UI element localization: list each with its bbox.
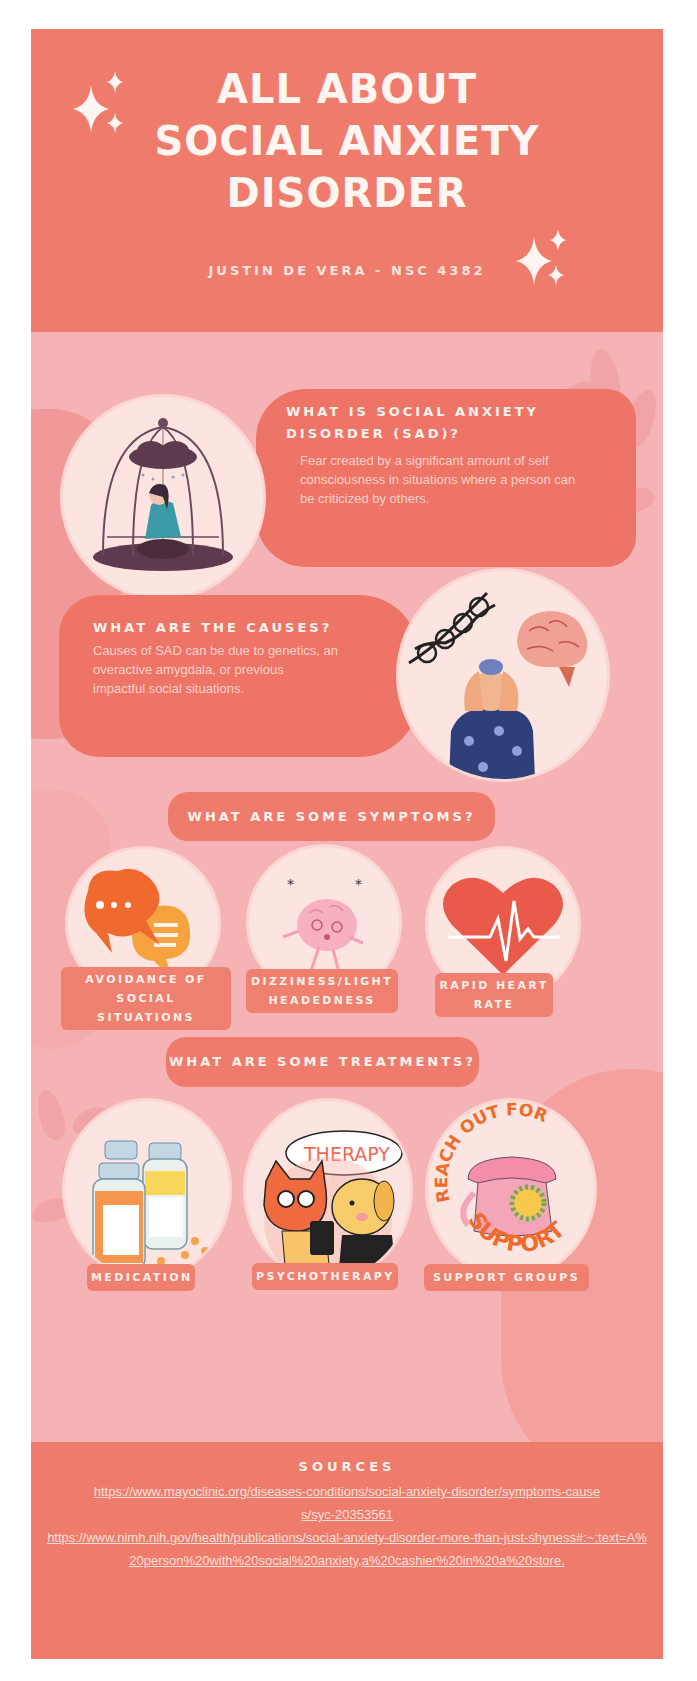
what-is-sad-card: WHAT IS SOCIAL ANXIETY DISORDER (SAD)? F… (256, 389, 636, 567)
title-line: SOCIAL ANXIETY (31, 115, 663, 167)
dna-brain-icon (399, 571, 607, 779)
woman-in-cage-icon (63, 397, 263, 597)
title-line: DISORDER (31, 167, 663, 219)
infographic-poster: ALL ABOUT SOCIAL ANXIETY DISORDER JUSTIN… (31, 29, 663, 1659)
label-line: RAPID HEART (439, 976, 549, 995)
svg-text:*: * (355, 876, 362, 892)
sparkle-icon (516, 225, 572, 295)
causes-card: WHAT ARE THE CAUSES? Causes of SAD can b… (59, 595, 419, 757)
pill-bottles-icon (65, 1101, 229, 1277)
what-is-sad-body: Fear created by a significant amount of … (286, 451, 616, 508)
sources-title: SOURCES (31, 1459, 663, 1474)
treatments-heading: WHAT ARE SOME TREATMENTS? (166, 1037, 479, 1087)
symptoms-title: WHAT ARE SOME SYMPTOMS? (188, 809, 476, 824)
label-line: AVOIDANCE OF (65, 970, 227, 989)
label-text: MEDICATION (91, 1271, 193, 1284)
label-line: SOCIAL SITUATIONS (65, 989, 227, 1027)
treatments-title: WHAT ARE SOME TREATMENTS? (169, 1054, 476, 1069)
sources-section: SOURCES https://www.mayoclinic.org/disea… (31, 1442, 663, 1659)
poster-title: ALL ABOUT SOCIAL ANXIETY DISORDER (31, 63, 663, 219)
birdcage-illustration (63, 397, 263, 597)
label-line: HEADEDNESS (250, 991, 394, 1010)
header-banner: ALL ABOUT SOCIAL ANXIETY DISORDER JUSTIN… (31, 29, 663, 332)
what-is-sad-title: WHAT IS SOCIAL ANXIETY DISORDER (SAD)? (286, 401, 616, 445)
symptom-label-avoidance: AVOIDANCE OF SOCIAL SITUATIONS (61, 967, 231, 1030)
label-text: SUPPORT GROUPS (433, 1271, 580, 1284)
treatment-support-circle: REACH OUT FOR SUPPORT (428, 1101, 594, 1277)
svg-text:*: * (287, 876, 294, 892)
source-link-nimh[interactable]: https://www.nimh.nih.gov/health/publicat… (31, 1526, 663, 1572)
symptom-label-dizziness: DIZZINESS/LIGHT HEADEDNESS (246, 969, 398, 1013)
causes-illustration (399, 571, 607, 779)
treatment-label-medication: MEDICATION (87, 1264, 195, 1291)
telephone-icon: REACH OUT FOR SUPPORT (428, 1101, 594, 1277)
causes-title: WHAT ARE THE CAUSES? (93, 617, 399, 639)
symptoms-heading: WHAT ARE SOME SYMPTOMS? (168, 792, 495, 841)
author-subtitle: JUSTIN DE VERA - NSC 4382 (31, 263, 663, 278)
causes-body: Causes of SAD can be due to genetics, an… (93, 641, 399, 698)
label-line: RATE (439, 995, 549, 1014)
treatment-psychotherapy-circle: THERAPY (246, 1101, 410, 1279)
label-line: DIZZINESS/LIGHT (250, 972, 394, 991)
treatment-label-support-groups: SUPPORT GROUPS (424, 1264, 589, 1291)
symptom-label-heart-rate: RAPID HEART RATE (435, 973, 553, 1017)
treatment-label-psychotherapy: PSYCHOTHERAPY (252, 1263, 398, 1290)
treatment-medication-circle (65, 1101, 229, 1277)
therapy-cat-dog-icon: THERAPY (246, 1101, 410, 1279)
title-line: ALL ABOUT (31, 63, 663, 115)
source-link-mayoclinic[interactable]: https://www.mayoclinic.org/diseases-cond… (31, 1480, 663, 1526)
label-text: PSYCHOTHERAPY (256, 1270, 395, 1283)
